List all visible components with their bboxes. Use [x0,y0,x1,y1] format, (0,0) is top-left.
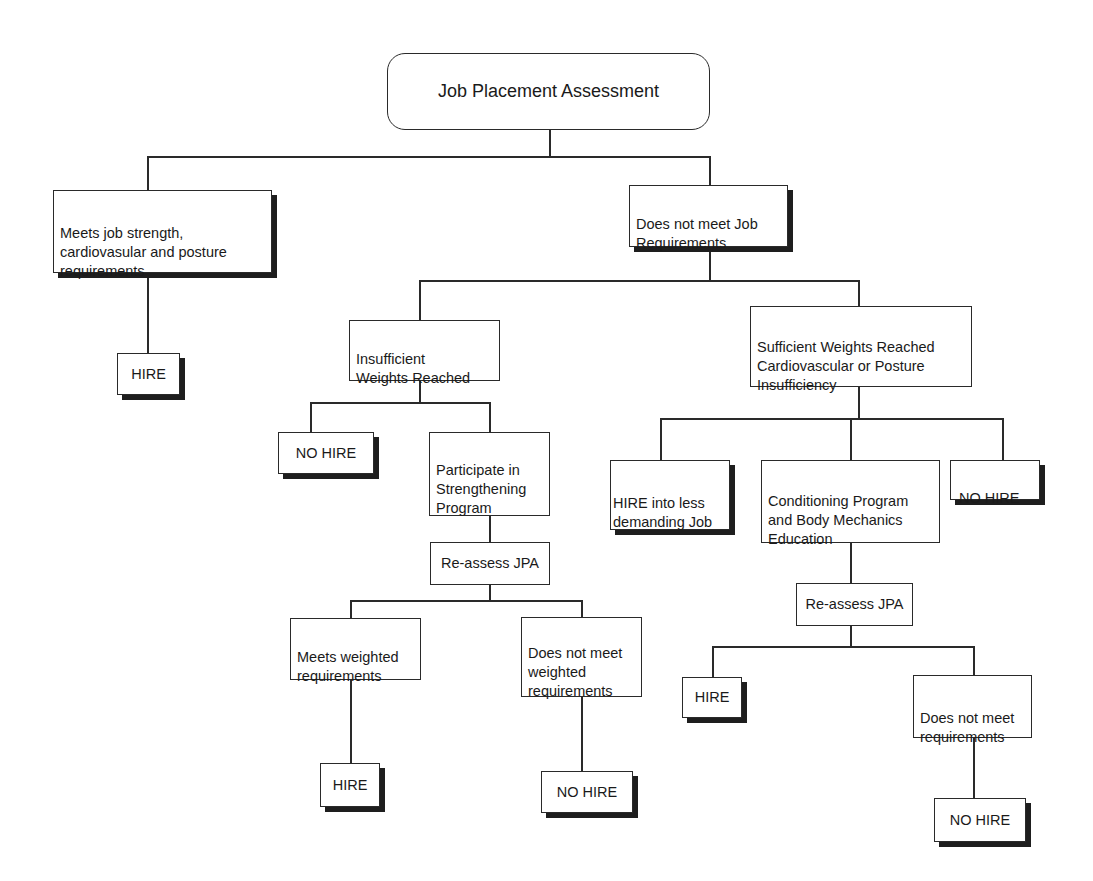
node-label: Meets job strength, cardiovasular and po… [60,225,227,279]
node-label: HIRE into less demanding Job [613,495,712,530]
node-label: Re-assess JPA [441,554,539,573]
connector [712,646,714,677]
connector [712,646,974,648]
connector [581,600,583,617]
node-label: NO HIRE [557,783,617,802]
connector [310,402,490,404]
connector [858,387,860,419]
connector [419,280,859,282]
connector [147,156,149,190]
node-label: NO HIRE [296,444,356,463]
connector [1002,418,1004,460]
connector [147,156,710,158]
node-hire-less-demanding-job: HIRE into less demanding Job [610,460,730,530]
connector [850,418,852,460]
node-sufficient-weights: Sufficient Weights Reached Cardiovascula… [750,306,972,387]
node-hire-outcome: HIRE [117,353,180,395]
node-reassess-jpa: Re-assess JPA [796,583,913,626]
node-label: Does not meet requirements [920,710,1014,745]
node-meets-job-requirements: Meets job strength, cardiovasular and po… [53,190,272,273]
node-does-not-meet-weighted: Does not meet weighted requirements [521,617,642,697]
node-hire-outcome: HIRE [320,763,380,807]
connector [973,738,975,798]
connector [489,402,491,432]
node-label: Job Placement Assessment [438,82,659,101]
node-label: HIRE [131,365,166,384]
connector [350,680,352,763]
connector [419,280,421,320]
node-label: Conditioning Program and Body Mechanics … [768,493,908,547]
node-label: NO HIRE [950,811,1010,830]
connector [973,646,975,675]
connector [660,418,662,460]
connector [350,600,352,618]
connector [660,418,1003,420]
node-job-placement-assessment: Job Placement Assessment [387,53,710,130]
connector [310,402,312,432]
node-label: Participate in Strengthening Program [436,462,526,516]
connector [850,626,852,647]
connector [709,156,711,185]
node-label: Re-assess JPA [805,595,903,614]
node-hire-outcome: HIRE [682,677,742,718]
connector [581,697,583,771]
node-meets-weighted-requirements: Meets weighted requirements [290,618,421,680]
node-no-hire-outcome: NO HIRE [541,771,633,813]
node-no-hire-outcome: NO HIRE [934,798,1026,842]
node-reassess-jpa: Re-assess JPA [430,542,550,585]
node-label: Does not meet Job Requirements [636,216,758,251]
connector [858,280,860,306]
node-label: HIRE [695,688,730,707]
connector [350,600,582,602]
node-strengthening-program: Participate in Strengthening Program [429,432,550,516]
node-label: Does not meet weighted requirements [528,645,622,699]
node-label: Meets weighted requirements [297,649,399,684]
connector [147,273,149,353]
node-label: Sufficient Weights Reached Cardiovascula… [757,339,935,393]
connector [489,516,491,542]
connector [549,130,551,157]
node-label: HIRE [333,776,368,795]
flowchart-canvas: Job Placement Assessment Meets job stren… [0,0,1093,881]
node-conditioning-program: Conditioning Program and Body Mechanics … [761,460,940,543]
node-label: NO HIRE [959,490,1019,506]
node-label: Insufficient Weights Reached [356,351,470,386]
node-no-hire-outcome: NO HIRE [278,432,374,474]
connector [489,585,491,601]
connector [850,543,852,583]
node-does-not-meet-requirements: Does not meet requirements [913,675,1032,738]
node-does-not-meet-job-requirements: Does not meet Job Requirements [629,185,788,247]
node-insufficient-weights: Insufficient Weights Reached [349,320,500,381]
node-no-hire-outcome: NO HIRE [950,460,1040,500]
